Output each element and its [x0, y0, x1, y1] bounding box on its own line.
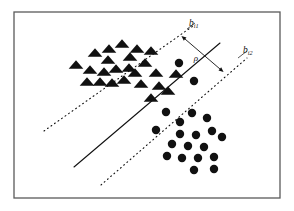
data-point-circle	[162, 108, 170, 116]
data-point-circle	[188, 109, 196, 117]
label-b-upper-subscript: i1	[194, 22, 199, 29]
data-point-circle	[168, 140, 176, 148]
svm-margin-figure: bi1 bi2 ρ	[0, 0, 294, 211]
data-point-circle	[218, 133, 226, 141]
label-margin-rho: ρ	[193, 53, 199, 63]
data-point-circle	[194, 154, 202, 162]
data-point-circle	[200, 143, 208, 151]
data-point-circle	[163, 152, 171, 160]
data-point-circle	[190, 166, 198, 174]
data-point-circle	[184, 142, 192, 150]
svm-diagram-canvas: bi1 bi2 ρ	[0, 0, 294, 211]
data-point-circle	[190, 77, 198, 85]
data-point-circle	[176, 118, 184, 126]
data-point-circle	[192, 131, 200, 139]
data-point-circle	[210, 153, 218, 161]
label-b-lower-subscript: i2	[248, 49, 253, 56]
data-point-circle	[178, 154, 186, 162]
data-point-circle	[175, 59, 183, 67]
data-point-circle	[152, 126, 160, 134]
data-point-circle	[176, 130, 184, 138]
data-point-circle	[208, 127, 216, 135]
data-point-circle	[203, 114, 211, 122]
data-point-circle	[210, 165, 218, 173]
